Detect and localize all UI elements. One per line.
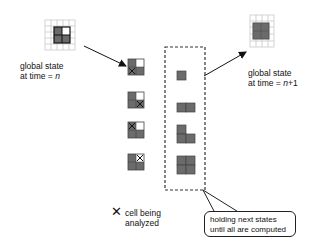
held-state-4 [177, 156, 195, 174]
analysis-step-2 [128, 92, 144, 108]
right-label-prefix: at time = [248, 78, 283, 88]
held-state-3 [177, 125, 195, 143]
analysis-step-3 [128, 122, 144, 138]
left-label-line1: global state [20, 61, 63, 71]
arrow-to-next-state [204, 52, 246, 76]
left-label-prefix: at time = [20, 71, 55, 81]
left-state-grid [45, 20, 75, 50]
callout-pointer [203, 190, 240, 213]
right-state-label: global state at time = n+1 [248, 68, 298, 88]
x-mark-icon: ✕ [111, 207, 122, 217]
legend-line1: cell being [125, 208, 161, 218]
right-state-grid [250, 15, 274, 47]
callout-line1: holding next states [210, 215, 295, 225]
right-label-line1: global state [248, 68, 298, 78]
analysis-step-1 [128, 59, 144, 75]
right-label-suffix: +1 [288, 78, 298, 88]
held-state-2 [177, 103, 195, 112]
arrow-to-analysis [84, 46, 126, 66]
legend: ✕ cell being analyzed [111, 208, 161, 228]
analysis-step-4 [128, 154, 144, 170]
callout-box: holding next states until all are comput… [204, 211, 296, 237]
left-label-var: n [55, 71, 60, 81]
held-state-1 [177, 71, 186, 80]
legend-line2: analyzed [125, 218, 161, 228]
callout-line2: until all are computed [210, 225, 295, 235]
left-state-label: global state at time = n [20, 61, 63, 81]
